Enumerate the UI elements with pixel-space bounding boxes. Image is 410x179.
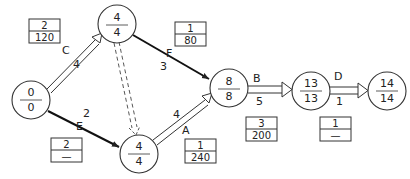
node-2-latest: 4	[136, 155, 143, 168]
node-0-latest: 0	[28, 101, 35, 114]
node-0: 0 0	[12, 81, 50, 119]
node-3-latest: 8	[226, 90, 233, 103]
node-2-earliest: 4	[136, 140, 143, 153]
node-5-latest: 14	[380, 92, 394, 105]
activity-f-box-top: 1	[187, 23, 193, 34]
activity-f-box: 1 80	[175, 22, 206, 46]
activity-a-label: A	[182, 124, 190, 137]
activity-f-duration: 3	[160, 60, 167, 73]
activity-a-arrow	[153, 93, 212, 145]
node-3: 8 8	[210, 69, 248, 107]
dummy-activity-arrow	[114, 42, 140, 135]
activity-e-box-bottom: —	[62, 151, 72, 162]
activity-b-box: 3 200	[246, 117, 277, 141]
node-4-earliest: 13	[304, 77, 318, 90]
activity-a-box-bottom: 240	[191, 152, 210, 163]
activity-d-box-top: 1	[332, 118, 338, 129]
node-1-earliest: 4	[114, 11, 121, 24]
node-2: 4 4	[120, 135, 158, 173]
node-4-latest: 13	[304, 92, 318, 105]
activity-c-label: C	[62, 44, 70, 57]
activity-c-box-top: 2	[41, 20, 47, 31]
activity-d-label: D	[334, 70, 342, 83]
node-1: 4 4	[98, 5, 136, 43]
activity-c-box-bottom: 120	[35, 32, 54, 43]
activity-d-duration: 1	[336, 95, 343, 108]
activity-c-box: 2 120	[29, 19, 60, 43]
activity-f-box-bottom: 80	[184, 35, 197, 46]
activity-e-duration: 2	[83, 107, 90, 120]
node-1-latest: 4	[114, 26, 121, 39]
activity-b-label: B	[253, 72, 261, 85]
activity-d-box-bottom: —	[331, 130, 341, 141]
activity-f-label: F	[166, 47, 172, 60]
node-5: 14 14	[368, 72, 406, 110]
node-5-earliest: 14	[380, 77, 394, 90]
activity-a-box-top: 1	[197, 140, 203, 151]
network-diagram: C 4 2 E F 3 4 A B 5 D 1 0 0 4 4 4 4 8 8 …	[0, 0, 410, 179]
activity-e-label: E	[76, 120, 83, 133]
node-3-earliest: 8	[226, 75, 233, 88]
activity-d-box: 1 —	[320, 117, 351, 141]
node-4: 13 13	[292, 72, 330, 110]
activity-a-duration: 4	[173, 108, 180, 121]
activity-c-duration: 4	[73, 58, 80, 71]
activity-a-box: 1 240	[185, 139, 216, 163]
activity-e-box: 2 —	[51, 138, 82, 162]
activity-b-duration: 5	[256, 95, 263, 108]
activity-e-box-top: 2	[63, 139, 69, 150]
activity-b-box-top: 3	[258, 118, 264, 129]
activity-b-box-bottom: 200	[252, 130, 271, 141]
node-0-earliest: 0	[28, 86, 35, 99]
